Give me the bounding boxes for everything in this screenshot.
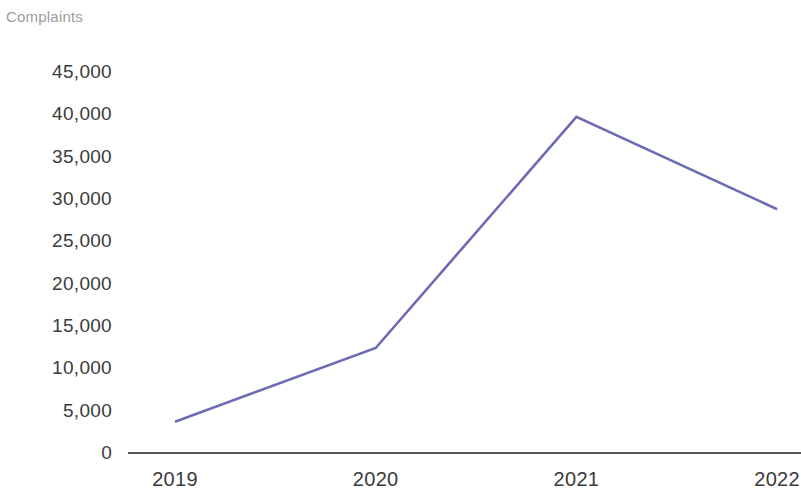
x-tick-label: 2021 bbox=[554, 468, 600, 491]
x-tick-label: 2019 bbox=[152, 468, 198, 491]
series-layer bbox=[0, 0, 801, 495]
series-line-complaints bbox=[175, 117, 777, 422]
x-tick-label: 2020 bbox=[353, 468, 399, 491]
x-tick-label: 2022 bbox=[754, 468, 800, 491]
plot-area bbox=[0, 0, 801, 495]
line-chart: Complaints 05,00010,00015,00020,00025,00… bbox=[0, 0, 801, 495]
